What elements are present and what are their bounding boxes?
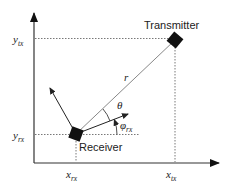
theta-arc	[103, 109, 110, 121]
phi-arc	[114, 120, 117, 135]
geometry-diagram: Transmitter Receiver r θ φrx ytx yrx xrx…	[0, 0, 236, 186]
x-rx-label: xrx	[65, 168, 78, 183]
transmitter-label: Transmitter	[144, 19, 200, 31]
x-tx-label: xtx	[165, 168, 177, 183]
theta-label: θ	[117, 99, 123, 111]
y-tx-label: ytx	[12, 33, 24, 48]
phi-label: φrx	[120, 119, 133, 134]
diagram-canvas: Transmitter Receiver r θ φrx ytx yrx xrx…	[0, 0, 236, 186]
receiver-label: Receiver	[79, 141, 123, 153]
y-rx-label: yrx	[12, 129, 25, 144]
receiver-normal-arrow	[50, 88, 76, 134]
r-label: r	[124, 71, 129, 83]
